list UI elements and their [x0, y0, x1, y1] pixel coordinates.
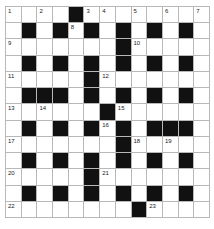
crossword-cell[interactable] [116, 169, 132, 185]
crossword-cell[interactable] [132, 153, 148, 169]
crossword-cell[interactable]: 7 [194, 7, 210, 23]
crossword-cell[interactable] [37, 202, 53, 218]
crossword-cell[interactable] [22, 7, 38, 23]
crossword-cell[interactable] [100, 56, 116, 72]
crossword-cell[interactable] [116, 72, 132, 88]
crossword-cell[interactable]: 5 [132, 7, 148, 23]
crossword-cell[interactable] [22, 202, 38, 218]
crossword-cell[interactable] [194, 104, 210, 120]
crossword-cell[interactable] [6, 56, 22, 72]
crossword-cell[interactable]: 2 [37, 7, 53, 23]
crossword-cell[interactable] [163, 186, 179, 202]
crossword-cell[interactable] [6, 88, 22, 104]
crossword-cell[interactable]: 13 [6, 104, 22, 120]
crossword-cell[interactable] [22, 72, 38, 88]
crossword-cell[interactable]: 16 [100, 121, 116, 137]
crossword-cell[interactable]: 17 [6, 137, 22, 153]
crossword-cell[interactable] [69, 56, 85, 72]
crossword-cell[interactable] [194, 72, 210, 88]
crossword-cell[interactable] [194, 153, 210, 169]
crossword-cell[interactable] [69, 72, 85, 88]
crossword-cell[interactable] [194, 39, 210, 55]
crossword-cell[interactable] [100, 153, 116, 169]
crossword-cell[interactable]: 4 [100, 7, 116, 23]
crossword-cell[interactable] [53, 202, 69, 218]
crossword-cell[interactable] [37, 169, 53, 185]
crossword-cell[interactable]: 20 [6, 169, 22, 185]
crossword-cell[interactable] [179, 39, 195, 55]
crossword-cell[interactable] [22, 169, 38, 185]
crossword-cell[interactable] [163, 72, 179, 88]
crossword-cell[interactable] [69, 104, 85, 120]
crossword-cell[interactable]: 12 [100, 72, 116, 88]
crossword-cell[interactable] [37, 186, 53, 202]
crossword-cell[interactable]: 19 [163, 137, 179, 153]
crossword-cell[interactable] [37, 39, 53, 55]
crossword-cell[interactable] [194, 186, 210, 202]
crossword-cell[interactable] [37, 153, 53, 169]
crossword-cell[interactable] [37, 121, 53, 137]
crossword-cell[interactable]: 14 [37, 104, 53, 120]
crossword-cell[interactable] [6, 153, 22, 169]
crossword-cell[interactable] [132, 56, 148, 72]
crossword-cell[interactable] [163, 202, 179, 218]
crossword-cell[interactable]: 21 [100, 169, 116, 185]
crossword-cell[interactable]: 15 [116, 104, 132, 120]
crossword-cell[interactable] [100, 23, 116, 39]
crossword-cell[interactable] [147, 137, 163, 153]
crossword-cell[interactable] [147, 104, 163, 120]
crossword-cell[interactable] [194, 169, 210, 185]
crossword-cell[interactable]: 8 [69, 23, 85, 39]
crossword-cell[interactable] [100, 202, 116, 218]
crossword-cell[interactable] [84, 104, 100, 120]
crossword-cell[interactable]: 1 [6, 7, 22, 23]
crossword-cell[interactable] [147, 7, 163, 23]
crossword-cell[interactable] [194, 56, 210, 72]
crossword-cell[interactable] [37, 137, 53, 153]
crossword-cell[interactable] [179, 72, 195, 88]
crossword-cell[interactable] [53, 137, 69, 153]
crossword-cell[interactable] [84, 39, 100, 55]
crossword-cell[interactable] [37, 23, 53, 39]
crossword-cell[interactable]: 18 [132, 137, 148, 153]
crossword-cell[interactable] [53, 169, 69, 185]
crossword-cell[interactable] [84, 202, 100, 218]
crossword-cell[interactable] [84, 137, 100, 153]
crossword-cell[interactable] [194, 137, 210, 153]
crossword-cell[interactable] [53, 104, 69, 120]
crossword-cell[interactable] [69, 202, 85, 218]
crossword-cell[interactable] [179, 169, 195, 185]
crossword-cell[interactable] [179, 7, 195, 23]
crossword-cell[interactable]: 9 [6, 39, 22, 55]
crossword-cell[interactable] [179, 137, 195, 153]
crossword-cell[interactable] [22, 137, 38, 153]
crossword-cell[interactable] [69, 88, 85, 104]
crossword-cell[interactable]: 6 [163, 7, 179, 23]
crossword-cell[interactable] [163, 56, 179, 72]
crossword-cell[interactable] [179, 202, 195, 218]
crossword-cell[interactable] [163, 153, 179, 169]
crossword-cell[interactable] [194, 23, 210, 39]
crossword-cell[interactable] [100, 186, 116, 202]
crossword-cell[interactable] [6, 186, 22, 202]
crossword-cell[interactable] [22, 39, 38, 55]
crossword-cell[interactable] [100, 39, 116, 55]
crossword-cell[interactable] [6, 121, 22, 137]
crossword-cell[interactable]: 23 [147, 202, 163, 218]
crossword-cell[interactable] [69, 153, 85, 169]
crossword-cell[interactable] [69, 39, 85, 55]
crossword-cell[interactable] [163, 104, 179, 120]
crossword-cell[interactable] [163, 169, 179, 185]
crossword-cell[interactable] [147, 39, 163, 55]
crossword-cell[interactable] [69, 186, 85, 202]
crossword-cell[interactable] [194, 88, 210, 104]
crossword-cell[interactable] [147, 72, 163, 88]
crossword-cell[interactable] [132, 23, 148, 39]
crossword-cell[interactable] [116, 202, 132, 218]
crossword-cell[interactable] [116, 7, 132, 23]
crossword-cell[interactable] [132, 72, 148, 88]
crossword-cell[interactable] [194, 202, 210, 218]
crossword-cell[interactable] [132, 88, 148, 104]
crossword-cell[interactable] [132, 104, 148, 120]
crossword-cell[interactable] [6, 23, 22, 39]
